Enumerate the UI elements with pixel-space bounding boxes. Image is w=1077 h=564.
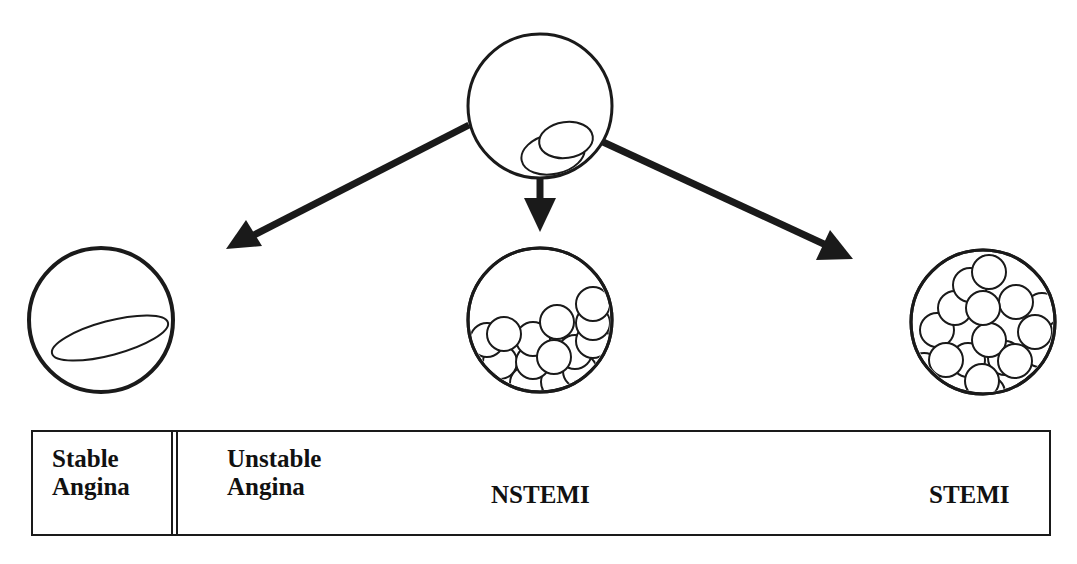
arrow-to-stemi-icon	[603, 142, 853, 260]
label-unstable-angina: Unstable Angina	[227, 445, 321, 501]
label-stable-line2: Angina	[52, 473, 130, 501]
vessel-stable-plaque-icon	[29, 248, 173, 392]
label-unstable-line1: Unstable	[227, 445, 321, 473]
stable-unstable-divider	[171, 432, 178, 534]
arrow-to-stable-icon	[226, 125, 469, 249]
arrow-to-nstemi-icon	[524, 177, 556, 232]
acs-spectrum-box: Stable Angina Unstable Angina NSTEMI STE…	[31, 430, 1051, 536]
label-nstemi: NSTEMI	[491, 481, 590, 509]
vessel-partial-occlusion-icon	[468, 248, 612, 400]
label-stable-angina: Stable Angina	[52, 445, 130, 501]
label-stemi: STEMI	[929, 481, 1010, 509]
vessel-plaque-icon	[468, 34, 612, 180]
label-stable-line1: Stable	[52, 445, 130, 473]
label-unstable-line2: Angina	[227, 473, 321, 501]
vessel-total-occlusion-icon	[907, 250, 1059, 410]
